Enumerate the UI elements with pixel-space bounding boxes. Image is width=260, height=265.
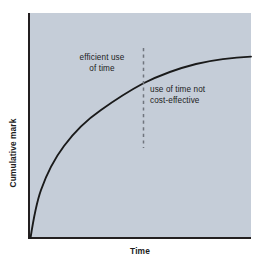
y-axis-title: Cumulative mark: [8, 93, 18, 213]
cumulative-mark-curve: [31, 57, 252, 238]
efficient-region-label: efficient use of time: [62, 53, 142, 74]
inefficient-region-label: use of time not cost-effective: [150, 85, 228, 106]
chart-overlay: [0, 0, 260, 265]
chart-figure: efficient use of time use of time not co…: [0, 0, 260, 265]
x-axis-title: Time: [29, 246, 251, 256]
